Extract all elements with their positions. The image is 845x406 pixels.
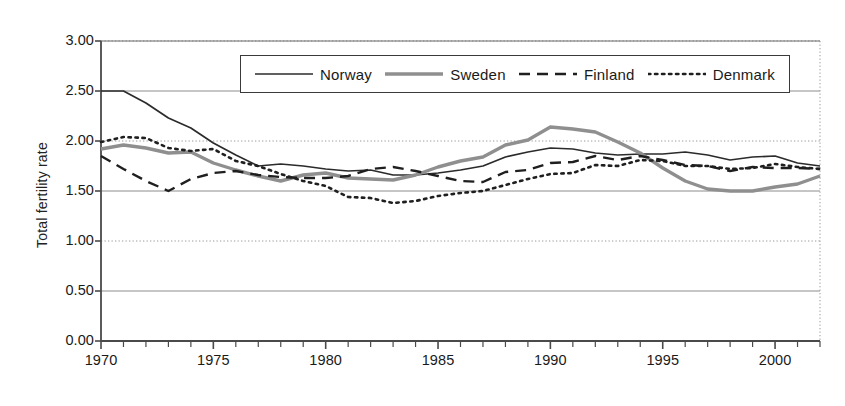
y-tick-label: 2.50: [65, 82, 94, 98]
legend-item-label: Finland: [584, 66, 635, 83]
thick-gray-line-icon: [385, 68, 443, 80]
x-tick-label: 2000: [759, 352, 792, 368]
legend-item-norway: Norway: [255, 66, 372, 83]
x-tick-label: 1975: [197, 352, 230, 368]
y-tick-label: 0.00: [65, 332, 94, 348]
legend-item-finland: Finland: [519, 66, 635, 83]
solid-line-icon: [255, 68, 313, 80]
legend-item-label: Denmark: [713, 66, 775, 83]
y-tick-label: 1.50: [65, 182, 94, 198]
x-tick-label: 1990: [534, 352, 567, 368]
y-tick-label: 1.00: [65, 232, 94, 248]
dashed-line-icon: [519, 68, 577, 80]
chart-figure: Total fertility rate 0.000.501.001.502.0…: [0, 0, 845, 406]
x-tick-label: 1995: [646, 352, 679, 368]
x-tick-label: 1980: [309, 352, 342, 368]
legend-item-sweden: Sweden: [385, 66, 505, 83]
dotted-line-icon: [648, 68, 706, 80]
y-axis-tick-labels: 0.000.501.001.502.002.503.00: [48, 0, 94, 406]
series-line-sweden: [101, 127, 820, 191]
y-tick-label: 0.50: [65, 282, 94, 298]
x-tick-label: 1985: [422, 352, 455, 368]
x-tick-label: 1970: [85, 352, 118, 368]
legend-item-label: Sweden: [450, 66, 505, 83]
y-tick-label: 2.00: [65, 132, 94, 148]
legend-item-label: Norway: [320, 66, 372, 83]
y-tick-label: 3.00: [65, 32, 94, 48]
legend-item-denmark: Denmark: [648, 66, 775, 83]
x-axis-tick-labels: 1970197519801985199019952000: [0, 352, 845, 376]
chart-legend: NorwaySwedenFinlandDenmark: [240, 55, 790, 93]
